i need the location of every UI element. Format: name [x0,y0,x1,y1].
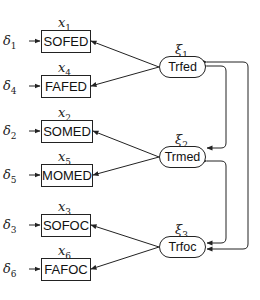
loading-arrow-xi3-x6 [91,247,159,269]
covariance-xi2-xi3 [207,161,226,243]
latent-node-trfed: Trfed [159,56,206,78]
covariance-xi1-xi3 [207,62,248,249]
loading-arrow-xi1-x1 [91,41,159,67]
latent-node-trfoc: Trfoc [159,236,206,258]
error-label-delta1: δ1 [3,34,17,51]
error-label-delta5: δ5 [3,168,17,185]
observed-box-somed: SOMED [41,120,93,143]
observed-box-sofed: SOFED [41,30,91,53]
error-label-delta2: δ2 [3,124,17,141]
observed-box-momed: MOMED [41,164,93,187]
sem-path-diagram: δ1 δ4 δ2 δ5 δ3 δ6 x1 x4 x2 x5 x3 x6 SOFE… [0,0,260,300]
observed-box-fafed: FAFED [41,75,91,98]
loading-arrow-xi1-x4 [91,67,159,86]
loading-arrow-xi2-x2 [93,131,159,157]
connector-layer [0,0,260,300]
loading-arrow-xi3-x3 [91,225,159,247]
error-label-delta4: δ4 [3,79,17,96]
loading-arrow-xi2-x5 [93,157,159,175]
error-label-delta3: δ3 [3,218,17,235]
error-label-delta6: δ6 [3,262,17,279]
covariance-xi1-xi2 [207,66,226,148]
latent-node-trmed: Trmed [159,146,206,168]
observed-box-fafoc: FAFOC [41,258,91,281]
observed-box-sofoc: SOFOC [41,214,91,237]
